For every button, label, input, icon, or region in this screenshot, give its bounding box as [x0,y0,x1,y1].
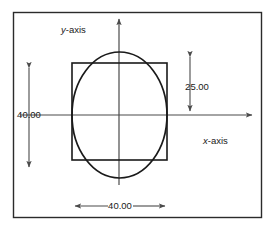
width-dimension-bottom-label: 40.00 [108,200,132,211]
y-axis-label: y-axis [60,24,86,35]
x-axis-label-rest: -axis [208,135,228,146]
height-dimension-right-label: 25.00 [185,81,209,92]
y-axis-label-rest: -axis [66,24,86,35]
engineering-drawing: y-axis x-axis 40.00 25.00 40.00 [0,0,273,231]
figure-canvas: y-axis x-axis 40.00 25.00 40.00 [0,0,273,231]
x-axis-label: x-axis [202,135,228,146]
height-dimension-left-label: 40.00 [17,109,41,120]
